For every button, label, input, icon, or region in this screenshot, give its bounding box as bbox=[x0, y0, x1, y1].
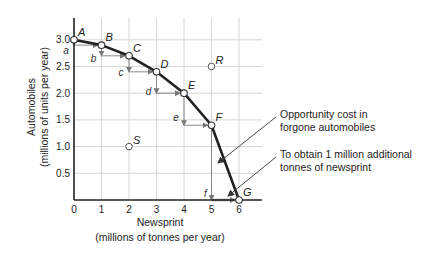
production-possibility-chart: abcdef ABCDEFGRS 01234560.51.01.52.02.53… bbox=[0, 0, 437, 256]
y-tick-label: 1.5 bbox=[56, 114, 70, 125]
point-g bbox=[236, 197, 243, 204]
y-tick-label: 3.0 bbox=[56, 34, 70, 45]
point-label-d: D bbox=[161, 58, 169, 70]
y-axis-subtitle: (millions of units per year) bbox=[38, 47, 50, 167]
annotation-opportunity-line1: Opportunity cost in bbox=[280, 108, 368, 120]
x-tick-label: 4 bbox=[181, 204, 187, 215]
annotation-pointer-opportunity bbox=[218, 117, 276, 163]
x-tick-label: 2 bbox=[126, 204, 132, 215]
x-axis-subtitle: (millions of tonnes per year) bbox=[95, 231, 225, 243]
point-b bbox=[98, 42, 105, 49]
point-label-s: S bbox=[133, 134, 141, 146]
x-tick-label: 1 bbox=[99, 204, 105, 215]
annotation-pointer-obtain bbox=[228, 157, 276, 196]
x-axis-title: Newsprint bbox=[137, 216, 184, 228]
y-tick-label: 2.0 bbox=[56, 88, 70, 99]
point-label-r: R bbox=[216, 54, 224, 66]
y-tick-label: 0.5 bbox=[56, 168, 70, 179]
curve-points: ABCDEFGRS bbox=[71, 26, 252, 204]
point-label-e: E bbox=[188, 79, 196, 91]
step-label-c: c bbox=[119, 67, 124, 78]
point-c bbox=[126, 53, 133, 60]
x-tick-label: 0 bbox=[71, 204, 77, 215]
step-label-b: b bbox=[91, 53, 97, 64]
annotations: Opportunity cost inforgone automobilesTo… bbox=[218, 108, 412, 196]
step-label-e: e bbox=[173, 112, 179, 123]
point-label-f: F bbox=[216, 111, 224, 123]
y-tick-label: 2.5 bbox=[56, 61, 70, 72]
x-tick-label: 5 bbox=[209, 204, 215, 215]
annotation-obtain-line1: To obtain 1 million additional bbox=[280, 148, 412, 160]
y-tick-label: 1.0 bbox=[56, 141, 70, 152]
point-e bbox=[181, 90, 188, 97]
point-d bbox=[153, 69, 160, 76]
point-a bbox=[71, 37, 78, 44]
annotation-opportunity-line2: forgone automobiles bbox=[280, 121, 375, 133]
y-axis-title: Automobiles bbox=[25, 78, 37, 136]
point-label-b: B bbox=[106, 31, 113, 43]
annotation-obtain-line2: tonnes of newsprint bbox=[280, 161, 371, 173]
point-r bbox=[208, 63, 215, 70]
step-label-d: d bbox=[146, 86, 152, 97]
point-f bbox=[208, 122, 215, 129]
step-label-f: f bbox=[204, 188, 208, 199]
point-s bbox=[126, 143, 133, 150]
x-tick-label: 3 bbox=[154, 204, 160, 215]
point-label-c: C bbox=[133, 42, 141, 54]
x-tick-label: 6 bbox=[236, 204, 242, 215]
step-label-a: a bbox=[63, 45, 69, 56]
point-label-g: G bbox=[243, 186, 252, 198]
point-label-a: A bbox=[77, 26, 85, 38]
